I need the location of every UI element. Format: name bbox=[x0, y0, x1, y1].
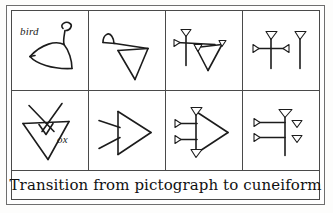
figure-caption-band: Transition from pictograph to cuneiform bbox=[12, 171, 319, 199]
bird-early-cuneiform-icon bbox=[166, 11, 242, 90]
cell-bird-pictograph: bird bbox=[12, 11, 89, 90]
table-row-bird: bird bbox=[12, 11, 319, 91]
cell-bird-early-cuneiform bbox=[166, 11, 243, 90]
cell-bird-late-cuneiform bbox=[243, 11, 319, 90]
bird-rotated-icon bbox=[89, 11, 165, 90]
ox-pictograph-icon bbox=[12, 91, 88, 170]
bird-late-cuneiform-icon bbox=[243, 11, 319, 90]
bird-pictograph-icon bbox=[12, 11, 88, 90]
cell-ox-rotated bbox=[89, 91, 166, 170]
cell-ox-pictograph: ox bbox=[12, 91, 89, 170]
cell-ox-early-cuneiform bbox=[166, 91, 243, 170]
figure-root: bird bbox=[0, 0, 333, 213]
cell-ox-late-cuneiform bbox=[243, 91, 319, 170]
sign-comparison-table: bird bbox=[11, 10, 320, 200]
ox-rotated-icon bbox=[89, 91, 165, 170]
ox-early-cuneiform-icon bbox=[166, 91, 242, 170]
cell-label-bird: bird bbox=[20, 25, 39, 37]
table-row-ox: ox bbox=[12, 91, 319, 171]
cell-bird-rotated bbox=[89, 11, 166, 90]
figure-caption-text: Transition from pictograph to cuneiform bbox=[10, 178, 322, 193]
cell-label-ox: ox bbox=[57, 133, 68, 145]
ox-late-cuneiform-icon bbox=[243, 91, 319, 170]
